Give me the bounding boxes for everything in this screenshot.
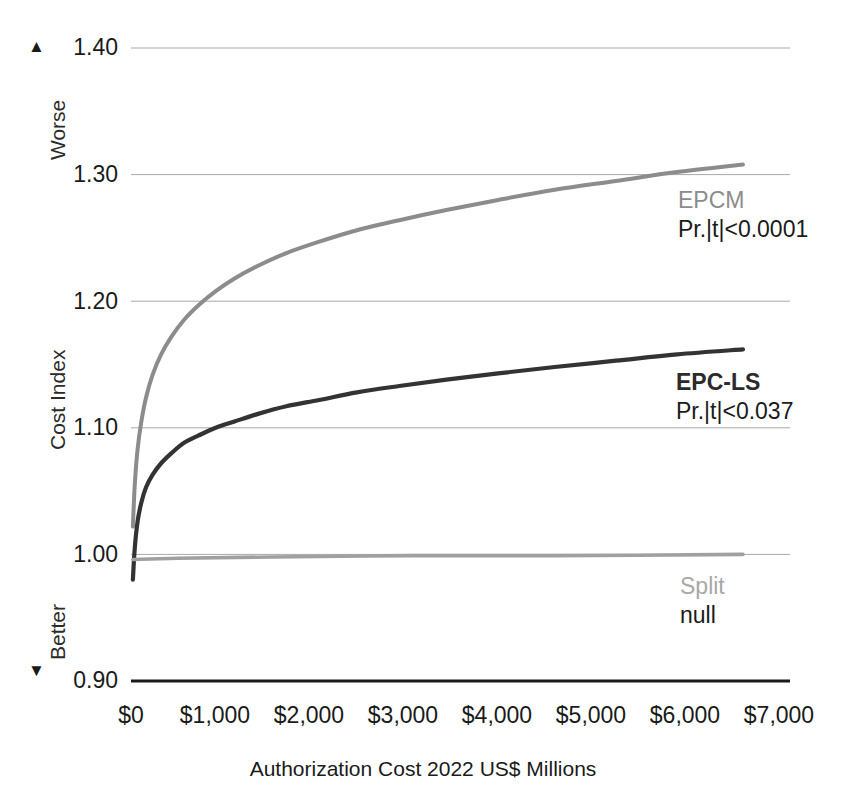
series-stat-epcls: Pr.|t|<0.037 <box>676 397 793 426</box>
worse-up-arrow-icon: ▲ <box>28 38 45 55</box>
y-tick-label-0-90: 0.90 <box>8 667 118 694</box>
series-stat-split: null <box>680 601 725 630</box>
series-line-split <box>133 554 743 559</box>
y-axis-title: Cost Index <box>46 350 70 450</box>
y-tick-label-1-40: 1.40 <box>8 34 118 61</box>
series-annotation-epcm: EPCM Pr.|t|<0.0001 <box>678 186 808 245</box>
series-line-epc-ls <box>133 349 743 579</box>
axis-direction-label-better: Better <box>46 604 70 660</box>
axis-direction-label-worse: Worse <box>46 100 70 160</box>
series-annotation-epcls: EPC-LS Pr.|t|<0.037 <box>676 368 793 427</box>
x-tick-label-7000: $7,000 <box>724 702 834 729</box>
series-label-epcls: EPC-LS <box>676 368 793 397</box>
data-series <box>133 164 743 579</box>
y-tick-label-1-00: 1.00 <box>8 541 118 568</box>
x-axis-title: Authorization Cost 2022 US$ Millions <box>0 757 846 781</box>
series-line-epcm <box>133 164 743 526</box>
y-tick-label-1-20: 1.20 <box>8 288 118 315</box>
series-annotation-split: Split null <box>680 572 725 631</box>
series-label-epcm: EPCM <box>678 186 808 215</box>
better-down-arrow-icon: ▼ <box>28 662 45 679</box>
chart-figure: 1.40 1.30 1.20 1.10 1.00 0.90 ▲ Worse Co… <box>0 0 846 798</box>
series-stat-epcm: Pr.|t|<0.0001 <box>678 215 808 244</box>
y-tick-label-1-30: 1.30 <box>8 161 118 188</box>
series-label-split: Split <box>680 572 725 601</box>
